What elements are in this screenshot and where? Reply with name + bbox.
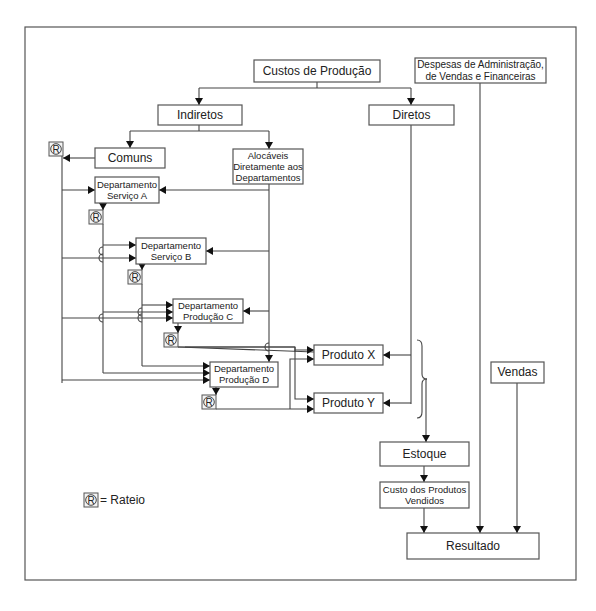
rateio-symbol: R <box>87 495 94 506</box>
rateio-icon: R <box>202 395 216 409</box>
cost-flow-diagram: Custos de ProduçãoDespesas de Administra… <box>0 0 596 611</box>
node-comuns: Comuns <box>95 148 165 168</box>
node-custos-producao: Custos de Produção <box>254 60 380 82</box>
node-produto-y: Produto Y <box>314 393 383 413</box>
legend: R= Rateio <box>84 493 145 507</box>
rateio-icon: R <box>89 210 103 224</box>
rateio-symbol: R <box>52 144 59 155</box>
node-vendas: Vendas <box>491 362 544 383</box>
node-label: Departamento <box>178 300 238 311</box>
node-label: Serviço B <box>151 251 192 262</box>
rateio-icon: R <box>128 270 142 284</box>
node-label: Produto X <box>322 348 375 362</box>
node-diretos: Diretos <box>369 105 454 125</box>
node-dept-servico-b: DepartamentoServiço B <box>136 238 206 264</box>
node-indiretos: Indiretos <box>158 105 242 125</box>
rateio-icon: R <box>49 142 63 156</box>
node-label: Produção C <box>183 311 233 322</box>
node-label: Indiretos <box>177 108 223 122</box>
node-alocaveis: AlocáveisDiretamente aosDepartamentos <box>233 149 303 184</box>
node-label: Departamentos <box>236 172 301 183</box>
node-label: de Vendas e Financeiras <box>425 71 535 82</box>
legend-text: = Rateio <box>100 493 145 507</box>
node-label: Produção D <box>219 374 269 385</box>
node-dept-producao-c: DepartamentoProdução C <box>173 299 243 323</box>
node-estoque: Estoque <box>380 442 469 466</box>
node-label: Custos de Produção <box>263 64 372 78</box>
node-label: Alocáveis <box>248 150 289 161</box>
node-label: Vendidos <box>405 495 444 506</box>
rateio-symbol: R <box>92 212 99 223</box>
node-resultado: Resultado <box>407 533 539 559</box>
rateio-icon: R <box>84 493 98 507</box>
rateio-icon: R <box>164 333 178 347</box>
node-label: Diretamente aos <box>233 161 303 172</box>
node-dept-producao-d: DepartamentoProdução D <box>210 362 278 387</box>
node-label: Comuns <box>108 151 153 165</box>
node-label: Serviço A <box>107 190 148 201</box>
rateio-symbol: R <box>167 335 174 346</box>
node-dept-servico-a: DepartamentoServiço A <box>95 177 159 203</box>
node-label: Custo dos Produtos <box>383 484 467 495</box>
node-label: Produto Y <box>322 396 375 410</box>
rateio-symbol: R <box>205 397 212 408</box>
node-custo-produtos-vendidos: Custo dos ProdutosVendidos <box>380 482 469 508</box>
node-produto-x: Produto X <box>314 345 383 365</box>
node-label: Departamento <box>214 363 274 374</box>
node-label: Despesas de Administração, <box>417 59 544 70</box>
node-label: Vendas <box>497 365 537 379</box>
node-label: Departamento <box>97 179 157 190</box>
node-despesas: Despesas de Administração,de Vendas e Fi… <box>415 58 546 83</box>
node-label: Diretos <box>392 108 430 122</box>
node-label: Departamento <box>141 240 201 251</box>
node-label: Resultado <box>446 539 500 553</box>
node-label: Estoque <box>402 447 446 461</box>
rateio-symbol: R <box>131 272 138 283</box>
node-layer: Custos de ProduçãoDespesas de Administra… <box>95 58 546 559</box>
